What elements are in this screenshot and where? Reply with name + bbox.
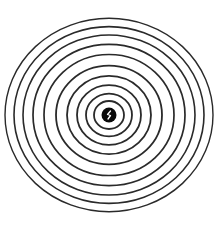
concentric-rings-figure (0, 0, 214, 227)
center-dot (102, 108, 117, 123)
